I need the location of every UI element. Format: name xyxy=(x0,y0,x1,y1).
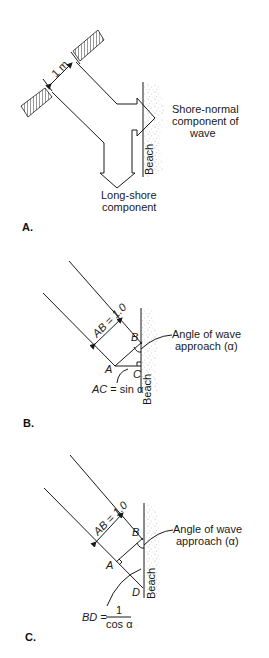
ac-label: AC = sin α xyxy=(91,383,144,395)
one-metre-label: 1 m xyxy=(49,58,70,79)
panel-b: AB = 1.0 B A C Angle of wave approach (α… xyxy=(23,261,241,429)
panel-label-a: A. xyxy=(22,221,33,233)
crest-line-ab xyxy=(116,538,143,562)
point-d-label: D xyxy=(132,586,140,598)
bd-label-denominator: cos α xyxy=(106,618,133,630)
wave-approach-figure: 1 m Beach Shore-normal component of wave… xyxy=(0,0,269,658)
point-a-label: A xyxy=(104,363,112,375)
long-shore-label-1: Long-shore xyxy=(101,189,157,201)
point-b-label: B xyxy=(132,526,139,538)
angle-arc-c xyxy=(137,543,144,548)
right-wall-hatched xyxy=(73,30,104,61)
point-c-label: C xyxy=(133,368,141,380)
wave-ray-lower xyxy=(44,488,143,588)
point-a-label: A xyxy=(105,559,113,571)
shore-normal-label-1: Shore-normal xyxy=(172,103,239,115)
wave-vector-arrows xyxy=(52,62,155,188)
bd-label-lhs: BD = xyxy=(82,611,107,623)
panel-label-b: B. xyxy=(23,417,34,429)
angle-label-c-2: approach (α) xyxy=(176,535,239,547)
panel-c: AB = 1.0 B A D Angle of wave approach (α… xyxy=(25,455,242,643)
beach-label-b: Beach xyxy=(141,374,153,405)
ac-leader-b xyxy=(117,369,128,383)
long-shore-label-2: component xyxy=(102,201,156,213)
angle-label-c-1: Angle of wave xyxy=(173,523,242,535)
right-angle-marker-c xyxy=(137,362,141,366)
beach-label-c: Beach xyxy=(145,568,157,599)
panel-label-c: C. xyxy=(25,631,36,643)
bd-label-numerator: 1 xyxy=(116,604,122,616)
panel-a: 1 m Beach Shore-normal component of wave… xyxy=(21,30,240,233)
right-angle-marker-a xyxy=(119,559,122,565)
beach-label-a: Beach xyxy=(143,144,155,175)
point-b-label: B xyxy=(131,331,138,343)
shore-normal-label-2: component of xyxy=(172,115,240,127)
left-wall-hatched xyxy=(21,88,52,117)
shore-normal-label-3: wave xyxy=(189,127,216,139)
angle-label-b-2: approach (α) xyxy=(175,340,238,352)
angle-label-b-1: Angle of wave xyxy=(172,328,241,340)
